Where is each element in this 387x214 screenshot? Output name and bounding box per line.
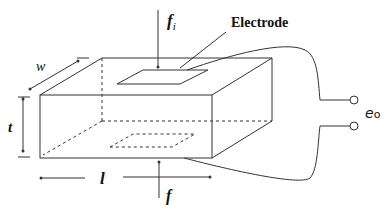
width-label: w xyxy=(36,60,45,74)
electrode-label: Electrode xyxy=(231,16,288,30)
bottom-wire xyxy=(184,126,350,180)
force-bottom-label: f xyxy=(166,188,171,204)
bottom-electrode xyxy=(110,134,195,147)
terminal-bottom xyxy=(350,122,358,130)
electrode-pointer xyxy=(180,32,226,68)
output-voltage-label: eo xyxy=(365,106,380,120)
top-wire xyxy=(187,47,350,100)
terminal-top xyxy=(350,96,358,104)
block-front-face xyxy=(40,95,212,158)
force-top-label: fi xyxy=(167,12,176,32)
length-label: l xyxy=(100,170,105,187)
block-right-face xyxy=(212,58,272,158)
top-electrode xyxy=(117,70,208,84)
block-top-face xyxy=(40,58,272,95)
thickness-label: t xyxy=(8,120,12,135)
diagram-canvas xyxy=(0,0,387,214)
